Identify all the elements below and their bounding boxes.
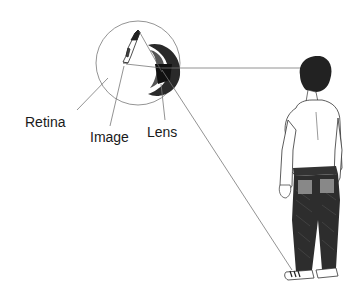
ray-to-feet <box>162 70 292 270</box>
retina-pointer <box>77 78 108 110</box>
standing-person <box>279 56 342 280</box>
lens-shading <box>148 44 180 96</box>
back-pocket-left <box>298 180 312 194</box>
back-pocket-right <box>320 179 334 193</box>
retina-image-figure <box>123 30 140 63</box>
person-hair <box>300 56 332 92</box>
person-shoe-right <box>316 268 338 278</box>
image-label: Image <box>90 130 129 144</box>
label-pointers <box>77 66 165 126</box>
eye-image-formation-diagram <box>0 0 353 293</box>
lens-label: Lens <box>147 125 177 139</box>
retina-label: Retina <box>25 115 65 129</box>
